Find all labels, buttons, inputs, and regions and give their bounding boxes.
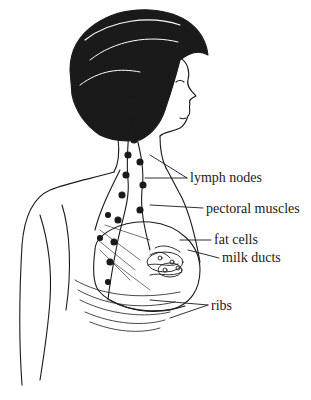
hair	[70, 10, 208, 141]
label-milk-ducts: milk ducts	[222, 251, 281, 265]
label-ribs: ribs	[211, 299, 232, 313]
ribs	[75, 280, 180, 331]
milk-ducts	[147, 246, 183, 277]
label-fat-cells: fat cells	[214, 233, 258, 247]
label-pectoral-muscles: pectoral muscles	[206, 202, 300, 216]
label-lymph-nodes: lymph nodes	[190, 171, 262, 185]
anatomy-illustration	[0, 0, 311, 400]
lymph-node-chain	[95, 120, 150, 300]
